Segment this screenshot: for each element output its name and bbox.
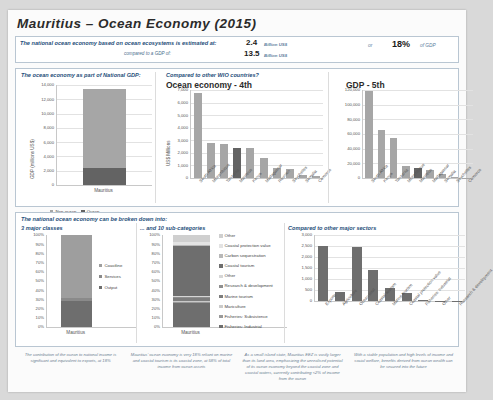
footer-note-text: The contribution of the ocean to nationa… (19, 352, 122, 364)
bar (318, 246, 328, 301)
stack-segment (83, 89, 126, 168)
y-tick-label: 20,000 (332, 161, 360, 166)
stack-segment (173, 242, 210, 245)
chart-gdp-share: 02,0004,0006,0008,00010,00012,00014,000M… (26, 85, 151, 205)
share-value: 18% (392, 39, 410, 49)
top-mid-header: Compared to other WIO countries? (166, 72, 259, 78)
ocean-unit: Billion US$ (264, 42, 287, 47)
legend-item: Services (99, 274, 122, 279)
legend-label: Mariculture (225, 304, 246, 309)
footer-notes: The contribution of the ocean to nationa… (15, 352, 459, 382)
bottom-mid-header: ... and 10 sub-categories (140, 225, 205, 231)
bar (365, 91, 373, 178)
y-axis-title: GDP (millions US$) (30, 139, 35, 179)
y-tick-label: 50% (140, 278, 160, 283)
y-tick-label: 40% (140, 288, 160, 293)
footer-note: As a small island state, Mauritius EEZ i… (237, 352, 348, 382)
gridline (315, 257, 465, 258)
gridline (363, 119, 473, 120)
share-label: of GDP (420, 43, 436, 48)
gridline (191, 140, 323, 141)
y-tick-label: 90% (140, 242, 160, 247)
stack-segment (173, 297, 210, 298)
footer-note-text: As a small island state, Mauritius EEZ i… (241, 352, 344, 382)
y-axis-title: US$ Millions (166, 140, 171, 166)
legend-label: Services (104, 274, 120, 279)
plot-area (46, 235, 137, 328)
y-tick-label: 80,000 (332, 117, 360, 122)
y-tick-label: 0 (288, 298, 312, 303)
stack-segment (173, 301, 210, 302)
y-tick-label: 2,000 (288, 254, 312, 259)
legend-label: Coastal protection value (225, 243, 271, 248)
stack-segment (173, 303, 210, 327)
gridline (191, 103, 323, 104)
y-tick-label: 12,000 (26, 97, 54, 102)
divider-2 (328, 72, 329, 203)
y-tick-label: 50% (24, 278, 44, 283)
bottom-header: The national ocean economy can be broken… (16, 213, 458, 222)
gridline (363, 90, 473, 91)
or-label: or (368, 43, 372, 48)
gdp-unit: Billion US$ (264, 53, 287, 58)
y-tick-label: 100% (24, 232, 44, 237)
y-tick-label: 6,000 (164, 100, 188, 105)
y-tick-label: 10% (140, 315, 160, 320)
legend-label: Coastline (104, 263, 122, 268)
chart-three-major-classes: 0%10%20%30%40%50%60%70%80%90%100%Mauriti… (24, 235, 136, 343)
y-tick-label: 10,000 (26, 111, 54, 116)
y-tick-label: 0 (332, 175, 360, 180)
stack-segment (61, 301, 92, 327)
legend-label: Marine tourism (225, 294, 253, 299)
legend: CoastlineServicesOutput (99, 263, 122, 296)
legend-item: Fisheries: Subsistence (219, 314, 273, 319)
y-tick-label: 0 (26, 182, 54, 187)
ocean-value: 2.4 (246, 38, 257, 47)
y-tick-label: 0 (164, 175, 188, 180)
y-tick-label: 80% (24, 251, 44, 256)
page-title: Mauritius – Ocean Economy (2015) (8, 10, 466, 36)
y-tick-label: 90% (24, 242, 44, 247)
headline-band: The national ocean economy based on ocea… (15, 36, 459, 63)
y-tick-label: 70% (140, 260, 160, 265)
stack-segment (173, 302, 210, 303)
y-tick-label: 20% (140, 306, 160, 311)
divider-1 (155, 72, 156, 203)
legend-item: Mariculture (219, 304, 273, 309)
gridline (363, 105, 473, 106)
y-tick-label: 100% (140, 232, 160, 237)
y-tick-label: 0% (24, 324, 44, 329)
legend-item: Research & development (219, 283, 273, 288)
y-tick-label: 120,000 (332, 87, 360, 92)
legend-item: Other (219, 273, 273, 278)
y-tick-label: 80% (140, 251, 160, 256)
legend-item: Other (219, 233, 273, 238)
legend-label: Other (225, 233, 236, 238)
x-axis-label: Mauritius (164, 330, 217, 335)
y-tick-label: 4,000 (164, 125, 188, 130)
legend-label: Output (104, 285, 117, 290)
y-tick-label: 20% (24, 306, 44, 311)
footer-note-text: Mauritius' ocean economy is very 18% rel… (130, 352, 233, 370)
gridline (315, 279, 465, 280)
y-tick-label: 5,000 (164, 113, 188, 118)
x-axis-label: Mauritius (52, 330, 99, 335)
infographic-page: Mauritius – Ocean Economy (2015) The nat… (8, 10, 466, 392)
gridline (315, 246, 465, 247)
y-tick-label: 500 (288, 287, 312, 292)
y-tick-label: 7,000 (164, 87, 188, 92)
y-tick-label: 14,000 (26, 82, 54, 87)
y-tick-label: 70% (24, 260, 44, 265)
y-tick-label: 2,500 (288, 243, 312, 248)
chart-ten-subcategories: 0%10%20%30%40%50%60%70%80%90%100%Mauriti… (140, 235, 286, 343)
stack-segment (173, 246, 210, 296)
stack-segment (61, 298, 92, 302)
headline-label: The national ocean economy based on ocea… (20, 40, 216, 46)
y-tick-label: 40,000 (332, 146, 360, 151)
chart-ocean-economy-wio: 01,0002,0003,0004,0005,0006,0007,000Sout… (164, 90, 322, 205)
gridline (315, 268, 465, 269)
y-tick-label: 30% (24, 297, 44, 302)
legend-label: Fisheries: Industrial (225, 324, 262, 329)
chart-major-sectors: 05001,0001,5002,0002,5003,000ExportsAgri… (288, 235, 464, 343)
y-tick-label: 10% (24, 315, 44, 320)
